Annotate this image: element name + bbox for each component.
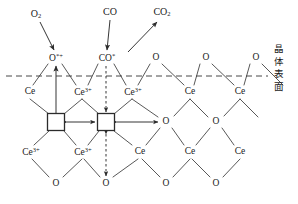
site-label-co-star: CO* bbox=[98, 53, 116, 63]
site-label-ce-lower-4: Ce bbox=[184, 147, 197, 157]
site-label-o-top-2: O bbox=[202, 53, 211, 63]
site-label-o-bottom-4: O bbox=[212, 179, 221, 189]
site-label-o-mid-2: O bbox=[212, 117, 221, 127]
arrow-o2-adsorb bbox=[40, 22, 54, 50]
site-label-o-top-3: O bbox=[252, 53, 261, 63]
site-label-o-bottom-1: O bbox=[52, 179, 61, 189]
site-label-o-top-1: O bbox=[152, 53, 161, 63]
surface-char-4: 面 bbox=[272, 81, 286, 94]
site-label-ce-upper-4: Ce bbox=[184, 87, 197, 97]
site-label-o-bottom-2: O bbox=[102, 179, 111, 189]
site-label-o-mid-1: O bbox=[162, 117, 171, 127]
site-label-ce-upper-3: Ce3+ bbox=[123, 87, 142, 97]
vacancy-square-2 bbox=[98, 114, 115, 131]
site-label-ce-lower-2: Ce3+ bbox=[73, 147, 92, 157]
surface-annotation-label: 晶 体 表 面 bbox=[272, 43, 286, 93]
site-label-ce-lower-3: Ce bbox=[134, 147, 147, 157]
gas-arrows bbox=[40, 20, 157, 52]
site-label-ce-lower-5: Ce bbox=[234, 147, 247, 157]
arrow-co-adsorb bbox=[107, 20, 110, 50]
site-label-ce-upper-5: Ce bbox=[234, 87, 247, 97]
vacancy-square-1 bbox=[48, 114, 65, 131]
surface-char-2: 体 bbox=[272, 56, 286, 69]
lattice-bonds bbox=[30, 64, 283, 177]
site-label-ce-upper-2: Ce3+ bbox=[73, 87, 92, 97]
site-label-o-bottom-3: O bbox=[162, 179, 171, 189]
site-label-ce-lower-1: Ce3+ bbox=[21, 147, 40, 157]
gas-label-co2: CO2 bbox=[152, 7, 171, 18]
gas-label-o2: O2 bbox=[30, 9, 42, 20]
reaction-mechanism-figure: O2 CO CO2 O*+ CO* O O O Ce Ce3+ Ce3+ Ce … bbox=[0, 0, 298, 204]
surface-char-3: 表 bbox=[272, 68, 286, 81]
lattice-drawing bbox=[0, 0, 298, 204]
site-label-ce-upper-1: Ce bbox=[24, 87, 37, 97]
surface-char-1: 晶 bbox=[272, 43, 286, 56]
site-label-o-star-plus: O*+ bbox=[48, 53, 64, 63]
arrow-co2-desorb bbox=[128, 22, 157, 52]
gas-label-co: CO bbox=[102, 7, 118, 17]
